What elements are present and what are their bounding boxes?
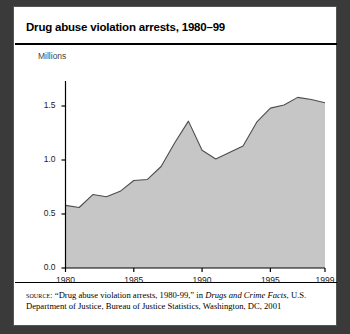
- x-tick-label: 1995: [252, 275, 288, 285]
- chart-plot-area: 0.00.51.01.5 19801985199019951999: [14, 7, 338, 291]
- y-tick-label: 0.0: [30, 262, 56, 272]
- x-tick-label: 1980: [48, 275, 84, 285]
- source-note: source: “Drug abuse violation arrests, 1…: [26, 290, 326, 313]
- y-tick-label: 1.5: [30, 100, 56, 110]
- source-publication: Drugs and Crime Facts: [205, 290, 286, 300]
- y-tick-label: 1.0: [30, 154, 56, 164]
- x-tick-label: 1985: [116, 275, 152, 285]
- figure-panel: Drug abuse violation arrests, 1980–99 Mi…: [13, 6, 337, 326]
- source-kicker: source:: [26, 291, 53, 300]
- source-divider: [15, 282, 337, 283]
- area-chart-svg: [14, 7, 338, 291]
- x-tick-label: 1999: [307, 275, 343, 285]
- x-tick-label: 1990: [184, 275, 220, 285]
- area-series-fill: [66, 97, 326, 268]
- y-tick-label: 0.5: [30, 208, 56, 218]
- source-quoted-title: “Drug abuse violation arrests, 1980-99,”…: [55, 290, 205, 300]
